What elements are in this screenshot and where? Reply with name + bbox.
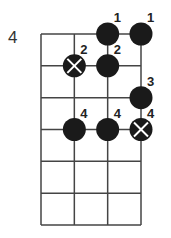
finger-number: 1	[114, 10, 121, 25]
note-dot: 4	[96, 106, 122, 142]
note-circle	[130, 23, 153, 46]
finger-number: 3	[147, 74, 154, 89]
note-circle	[63, 118, 86, 141]
finger-number: 4	[114, 106, 122, 121]
start-fret-label: 4	[8, 28, 17, 47]
note-dot: 3	[130, 74, 155, 110]
muted-note-marker: 2	[63, 42, 88, 78]
note-circle	[96, 54, 119, 77]
note-dot: 1	[130, 10, 155, 46]
muted-note-marker: 4	[130, 106, 156, 142]
finger-number: 4	[147, 106, 155, 121]
note-circle	[96, 118, 119, 141]
note-dot: 2	[96, 42, 121, 78]
fretboard-diagram: 4 11223444	[0, 0, 171, 238]
finger-number: 2	[80, 42, 87, 57]
finger-number: 1	[147, 10, 154, 25]
note-dot: 1	[96, 10, 121, 46]
note-dot: 4	[63, 106, 89, 142]
fretboard-grid	[41, 34, 141, 225]
finger-number: 4	[80, 106, 88, 121]
finger-number: 2	[114, 42, 121, 57]
